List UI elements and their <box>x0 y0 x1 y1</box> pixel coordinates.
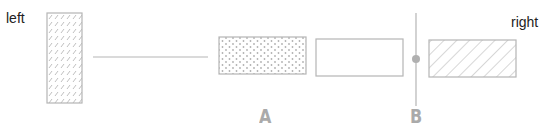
empty-block <box>316 39 403 76</box>
divider-dot <box>412 55 420 63</box>
hatched-block <box>429 40 516 77</box>
label-b: B <box>410 104 422 128</box>
label-a: A <box>259 104 271 128</box>
left-block <box>47 13 82 103</box>
label-left: left <box>6 10 25 26</box>
dotted-block <box>219 37 306 74</box>
label-right: right <box>511 14 538 30</box>
diagram-canvas <box>0 0 560 131</box>
